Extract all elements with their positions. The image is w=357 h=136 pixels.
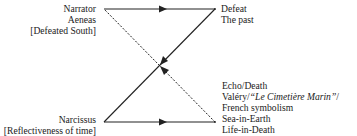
valery-suffix: / [336,91,339,102]
arrowhead-right-icon [159,6,167,13]
arrowhead-right-icon [159,119,167,126]
label-bottom-left: Narcissus [Reflectiveness of time] [4,114,96,136]
arrowhead-up-left-icon [160,66,169,75]
node-dot [214,8,216,10]
label-echo-death: Echo/Death [222,80,339,91]
label-narrator: Narrator [30,3,96,14]
valery-title: “Le Cimetière Marin” [250,91,337,102]
label-defeated-south: [Defeated South] [30,25,96,36]
label-life-in-death: Life-in-Death [222,124,339,135]
label-bottom-right: Echo/Death Valéry/“Le Cimetière Marin”/ … [222,80,339,135]
valery-prefix: Valéry/ [222,91,250,102]
label-sea-in-earth: Sea-in-Earth [222,113,339,124]
label-top-right: Defeat The past [221,3,254,25]
label-the-past: The past [221,14,254,25]
label-french-symbolism: French symbolism [222,102,339,113]
label-narcissus: Narcissus [4,114,96,125]
node-dot [214,121,216,123]
label-aeneas: Aeneas [30,14,96,25]
label-defeat: Defeat [221,3,254,14]
label-valery: Valéry/“Le Cimetière Marin”/ [222,91,339,102]
label-reflectiveness: [Reflectiveness of time] [4,125,96,136]
label-top-left: Narrator Aeneas [Defeated South] [30,3,96,36]
